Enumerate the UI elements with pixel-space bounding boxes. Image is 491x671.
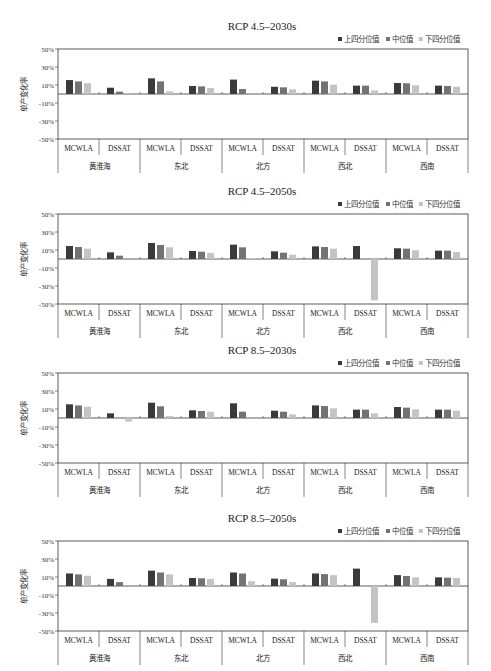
- legend-swatch: [386, 37, 390, 41]
- region-label: 西北: [338, 162, 353, 171]
- chart-title: RCP 4.5–2050s: [228, 185, 297, 197]
- region-label: 北方: [256, 161, 271, 171]
- legend-label: 上四分位值: [344, 526, 380, 536]
- bar-median: [444, 251, 451, 259]
- y-tick-label: 50%: [41, 538, 54, 546]
- y-tick-label: 10%: [41, 82, 54, 90]
- bar-median: [198, 578, 205, 586]
- bar-lower-quartile: [166, 247, 173, 259]
- y-tick-label: -50%: [39, 301, 54, 309]
- bar-upper-quartile: [230, 403, 237, 418]
- y-tick-label: 50%: [41, 370, 54, 378]
- bar-median: [403, 249, 410, 259]
- y-tick-label: 30%: [41, 64, 54, 72]
- model-label: MCWLA: [146, 309, 175, 318]
- legend-label: 中位值: [392, 34, 414, 44]
- bar-upper-quartile: [107, 579, 114, 586]
- bar-lower-quartile: [166, 416, 173, 418]
- bar-median: [321, 574, 328, 586]
- bar-upper-quartile: [189, 251, 196, 259]
- bar-lower-quartile: [371, 413, 378, 418]
- legend-label: 上四分位值: [344, 34, 380, 44]
- bar-lower-quartile: [166, 91, 173, 94]
- region-label: 黄淮海: [89, 161, 111, 171]
- region-label: 东北: [174, 161, 189, 171]
- model-label: MCWLA: [228, 636, 257, 645]
- bar-lower-quartile: [84, 249, 91, 259]
- legend: 上四分位值中位值下四分位值: [338, 526, 461, 536]
- y-tick-label: 50%: [41, 46, 54, 54]
- model-label: MCWLA: [392, 309, 421, 318]
- y-tick-label: -30%: [39, 118, 54, 126]
- bar-lower-quartile: [330, 575, 337, 586]
- bar-lower-quartile: [248, 581, 255, 586]
- bar-upper-quartile: [189, 410, 196, 418]
- bar-lower-quartile: [371, 90, 378, 94]
- model-label: DSSAT: [108, 468, 131, 477]
- bar-upper-quartile: [107, 413, 114, 418]
- region-label: 西南: [420, 161, 435, 171]
- legend-swatch: [419, 361, 423, 365]
- bar-median: [403, 408, 410, 418]
- bar-upper-quartile: [107, 252, 114, 259]
- bar-median: [75, 405, 82, 418]
- bar-median: [362, 86, 369, 94]
- model-label: DSSAT: [190, 636, 213, 645]
- model-label: MCWLA: [64, 636, 93, 645]
- bar-median: [116, 582, 123, 586]
- region-label: 北方: [256, 653, 271, 663]
- bar-lower-quartile: [330, 85, 337, 94]
- model-label: DSSAT: [272, 144, 295, 153]
- model-label: MCWLA: [228, 468, 257, 477]
- y-tick-label: 10%: [41, 406, 54, 414]
- legend-swatch: [386, 529, 390, 533]
- model-label: DSSAT: [272, 636, 295, 645]
- bar-median: [75, 81, 82, 94]
- region-label: 西北: [338, 486, 353, 495]
- model-label: DSSAT: [190, 144, 213, 153]
- bar-upper-quartile: [435, 577, 442, 586]
- model-label: DSSAT: [436, 636, 459, 645]
- y-tick-label: 50%: [41, 211, 54, 219]
- bar-upper-quartile: [66, 80, 73, 94]
- region-label: 西南: [420, 485, 435, 495]
- y-tick-label: -50%: [39, 136, 54, 144]
- bar-median: [280, 253, 287, 259]
- chart-4: RCP 8.5–2050s上四分位值中位值下四分位值50%30%10%-10%-…: [0, 510, 491, 670]
- bar-lower-quartile: [289, 414, 296, 418]
- y-axis-label: 单产变化率: [19, 568, 29, 604]
- chart-svg: RCP 8.5–2030s上四分位值中位值下四分位值50%30%10%-10%-…: [0, 342, 491, 502]
- bar-median: [116, 92, 123, 94]
- model-label: DSSAT: [272, 468, 295, 477]
- model-label: DSSAT: [436, 309, 459, 318]
- y-axis-label: 单产变化率: [19, 76, 29, 112]
- bar-upper-quartile: [394, 575, 401, 586]
- bar-upper-quartile: [271, 579, 278, 586]
- bar-lower-quartile: [453, 87, 460, 94]
- bar-upper-quartile: [148, 78, 155, 94]
- bar-median: [75, 247, 82, 259]
- y-tick-label: -10%: [39, 100, 54, 108]
- bar-median: [157, 573, 164, 587]
- bar-upper-quartile: [148, 243, 155, 259]
- bar-lower-quartile: [166, 574, 173, 586]
- bar-median: [280, 412, 287, 418]
- region-label: 东北: [174, 326, 189, 336]
- model-label: MCWLA: [392, 468, 421, 477]
- bar-median: [403, 83, 410, 94]
- bar-median: [157, 245, 164, 259]
- model-label: MCWLA: [310, 468, 339, 477]
- model-label: MCWLA: [146, 636, 175, 645]
- bar-median: [403, 576, 410, 586]
- y-tick-label: -10%: [39, 424, 54, 432]
- legend-label: 下四分位值: [425, 34, 461, 44]
- bar-upper-quartile: [312, 573, 319, 586]
- bar-lower-quartile: [207, 253, 214, 259]
- region-label: 黄淮海: [89, 326, 111, 336]
- bar-lower-quartile: [207, 579, 214, 586]
- model-label: DSSAT: [354, 468, 377, 477]
- bar-lower-quartile: [84, 407, 91, 418]
- legend-label: 上四分位值: [344, 199, 380, 209]
- chart-svg: RCP 4.5–2030s上四分位值中位值下四分位值50%30%10%-10%-…: [0, 18, 491, 178]
- bar-upper-quartile: [189, 86, 196, 94]
